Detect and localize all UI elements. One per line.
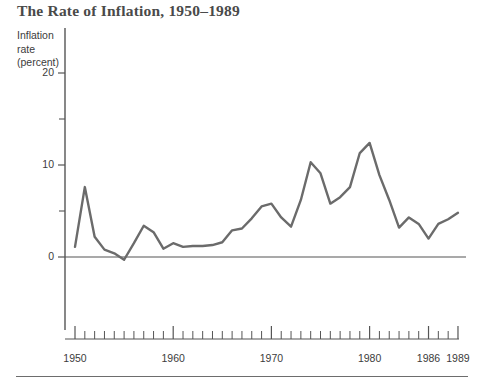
x-tick-label: 1960 [153,352,193,364]
inflation-rate-line [75,143,458,260]
y-tick-label: 10 [24,158,54,170]
bottom-rule [16,376,468,377]
x-tick-label: 1970 [251,352,291,364]
y-tick-label: 0 [24,250,54,262]
plot-area [0,0,479,388]
y-tick-label: 20 [24,66,54,78]
x-tick-label: 1989 [438,352,478,364]
x-tick-label: 1950 [55,352,95,364]
x-tick-label: 1980 [350,352,390,364]
inflation-chart-figure: The Rate of Inflation, 1950–1989 Inflati… [0,0,479,388]
